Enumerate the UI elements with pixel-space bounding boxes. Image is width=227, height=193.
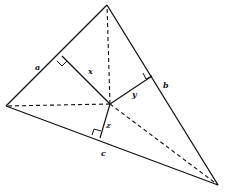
right-angle-marker-c — [92, 129, 101, 135]
perpendicular-y — [110, 76, 152, 104]
label-distance-y: y — [131, 89, 138, 99]
perpendicular-x — [62, 56, 110, 104]
triangle-diagram: a b c x y z — [0, 0, 227, 193]
label-side-b: b — [163, 80, 169, 90]
side-a — [6, 5, 107, 106]
label-distance-z: z — [105, 120, 111, 130]
right-angle-marker-a — [57, 61, 67, 66]
dashed-to-top-vertex — [107, 5, 110, 104]
label-side-c: c — [101, 148, 106, 158]
dashed-to-left-vertex — [6, 104, 110, 106]
label-distance-x: x — [87, 66, 93, 76]
side-c — [6, 106, 218, 185]
dashed-to-bottom-right-vertex — [110, 104, 218, 185]
label-side-a: a — [35, 62, 40, 72]
